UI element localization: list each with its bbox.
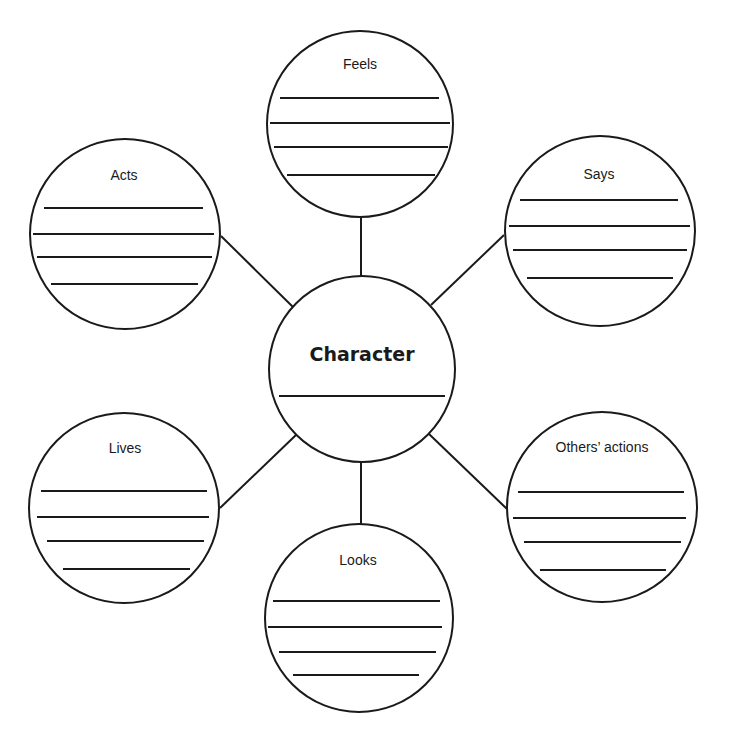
node-circle-says	[505, 136, 695, 326]
connector-line-says	[431, 235, 504, 305]
character-web-diagram: FeelsActsSaysLivesOthers’ actionsLooks C…	[0, 0, 729, 755]
node-feels: Feels	[267, 31, 453, 217]
node-lives: Lives	[29, 413, 219, 603]
node-others-actions: Others’ actions	[507, 412, 697, 602]
connector-line-acts	[221, 236, 293, 307]
node-label-looks: Looks	[339, 552, 376, 568]
node-label-feels: Feels	[343, 56, 377, 72]
center-circle	[269, 276, 455, 462]
center-label: Character	[309, 343, 415, 365]
center-node-character: Character	[269, 276, 455, 462]
connector-line-others-actions	[429, 434, 507, 509]
node-looks: Looks	[265, 524, 453, 712]
node-label-says: Says	[583, 166, 614, 182]
node-label-lives: Lives	[109, 440, 142, 456]
node-label-others-actions: Others’ actions	[556, 439, 649, 455]
node-says: Says	[505, 136, 695, 326]
connector-line-lives	[220, 435, 296, 508]
node-acts: Acts	[30, 139, 220, 329]
node-label-acts: Acts	[110, 167, 137, 183]
